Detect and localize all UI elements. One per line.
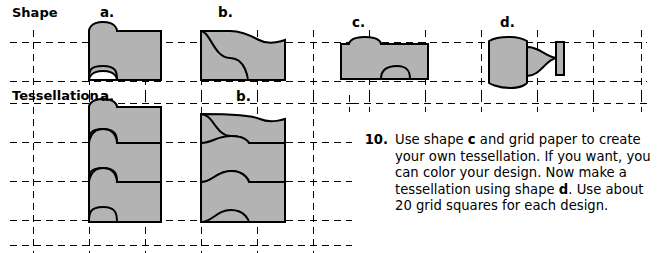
- shape-d: [489, 37, 527, 88]
- problem-number: 10.: [362, 132, 395, 149]
- problem-text-part6: using shape: [475, 182, 559, 197]
- shape-label-c: c.: [352, 14, 365, 30]
- shape-label-d: d.: [500, 14, 515, 30]
- shape-label-b: b.: [218, 4, 233, 20]
- problem-text-part8: squares for each design.: [446, 198, 608, 213]
- shape-a: [89, 22, 161, 80]
- worksheet-page: Shape Tessellation a. b. c. d. a. b. 10.…: [0, 0, 657, 253]
- tessellation-label-a: a.: [100, 88, 114, 104]
- shape-row-label: Shape: [12, 5, 58, 20]
- problem-10: 10. Use shape c and grid paper to create…: [362, 132, 652, 215]
- tessellation-shapes: [0, 0, 657, 253]
- problem-text-part2: and grid paper to: [476, 132, 595, 147]
- shape-b: [201, 31, 285, 80]
- problem-text-part1: Use shape: [395, 132, 468, 147]
- shape-d-bar: [556, 42, 564, 75]
- problem-bold-c: c: [468, 132, 476, 147]
- problem-text: Use shape c and grid paper to create you…: [395, 132, 652, 215]
- tessellation-row-label: Tessellation: [12, 88, 99, 103]
- shape-d-waist: [527, 47, 558, 76]
- shape-label-a: a.: [100, 4, 114, 20]
- problem-bold-d: d: [559, 182, 568, 197]
- tessellation-label-b: b.: [236, 88, 251, 104]
- shape-c: [341, 37, 428, 79]
